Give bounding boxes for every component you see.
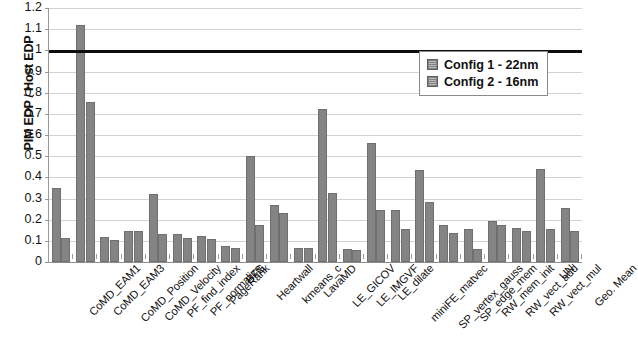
bar (376, 210, 385, 262)
bar-group (464, 8, 483, 262)
y-tick-label: 0.2 (0, 212, 42, 226)
x-tick-mark (363, 254, 364, 259)
bar (473, 249, 482, 262)
y-tick-mark (45, 177, 49, 178)
bar (546, 229, 555, 262)
bar-group (270, 8, 289, 262)
bar-group (561, 8, 580, 262)
bar (425, 202, 434, 262)
y-tick-mark (45, 93, 49, 94)
bar-group (415, 8, 434, 262)
legend-swatch-icon (427, 59, 438, 70)
bar-group (512, 8, 531, 262)
legend-swatch-icon (427, 76, 438, 87)
bar (149, 194, 158, 262)
y-tick-mark (45, 114, 49, 115)
bar (270, 205, 279, 262)
y-tick-label: 1 (0, 42, 42, 56)
bar (61, 238, 70, 262)
bar-group (124, 8, 143, 262)
bar-group (294, 8, 313, 262)
x-tick-mark (411, 254, 412, 259)
y-tick-label: 0.4 (0, 169, 42, 183)
y-tick-label: 0.3 (0, 191, 42, 205)
y-tick-label: 0 (0, 254, 42, 268)
bar-group (536, 8, 555, 262)
bar (570, 231, 579, 262)
x-tick-mark (436, 254, 437, 259)
y-tick-mark (45, 241, 49, 242)
y-tick-mark (45, 8, 49, 9)
y-tick-mark (45, 199, 49, 200)
bar-group (52, 8, 71, 262)
bar-group (391, 8, 410, 262)
bar (367, 143, 376, 262)
x-tick-mark (242, 254, 243, 259)
bar (255, 225, 264, 262)
bar (415, 170, 424, 262)
x-tick-mark (533, 254, 534, 259)
bar (86, 102, 95, 262)
bar-group (246, 8, 265, 262)
x-tick-mark (290, 254, 291, 259)
x-tick-mark (193, 254, 194, 259)
bar (464, 229, 473, 262)
y-tick-mark (45, 135, 49, 136)
x-tick-mark (145, 254, 146, 259)
y-tick-mark (45, 220, 49, 221)
x-tick-mark (218, 254, 219, 259)
y-tick-label: 0.8 (0, 85, 42, 99)
x-tick-mark (48, 254, 49, 259)
x-tick-mark (557, 254, 558, 259)
x-tick-mark (72, 254, 73, 259)
bar (52, 188, 61, 262)
bar-group (488, 8, 507, 262)
x-tick-mark (315, 254, 316, 259)
bar-group (343, 8, 362, 262)
y-tick-label: 0.9 (0, 64, 42, 78)
bar-group (439, 8, 458, 262)
bar (318, 109, 327, 262)
legend-label: Config 2 - 16nm (444, 75, 538, 89)
bar (401, 229, 410, 262)
legend-item: Config 2 - 16nm (427, 73, 538, 90)
bar (110, 240, 119, 262)
legend-label: Config 1 - 22nm (444, 58, 538, 72)
bar (183, 238, 192, 262)
bar (497, 225, 506, 262)
bar (124, 231, 133, 262)
chart-legend: Config 1 - 22nmConfig 2 - 16nm (419, 51, 548, 96)
bar-group (149, 8, 168, 262)
x-tick-mark (387, 254, 388, 259)
bar (488, 221, 497, 262)
bar-group (318, 8, 337, 262)
y-tick-label: 0.7 (0, 106, 42, 120)
bar (231, 248, 240, 262)
bar-group (197, 8, 216, 262)
bar-group (221, 8, 240, 262)
x-tick-mark (121, 254, 122, 259)
bar (522, 231, 531, 262)
bar (304, 248, 313, 262)
legend-item: Config 1 - 22nm (427, 56, 538, 73)
bar-group (173, 8, 192, 262)
y-tick-mark (45, 29, 49, 30)
bar (439, 225, 448, 262)
bar (561, 208, 570, 262)
bar (76, 25, 85, 262)
bar (197, 236, 206, 262)
y-tick-mark (45, 72, 49, 73)
x-tick-mark (169, 254, 170, 259)
x-tick-mark (508, 254, 509, 259)
gridline (49, 262, 582, 263)
bar (391, 210, 400, 262)
bar (343, 249, 352, 262)
x-tick-mark (460, 254, 461, 259)
plot-area (48, 8, 582, 262)
bar-group (76, 8, 95, 262)
x-tick-mark (484, 254, 485, 259)
x-tick-mark (581, 254, 582, 259)
y-tick-mark (45, 156, 49, 157)
x-tick-mark (266, 254, 267, 259)
